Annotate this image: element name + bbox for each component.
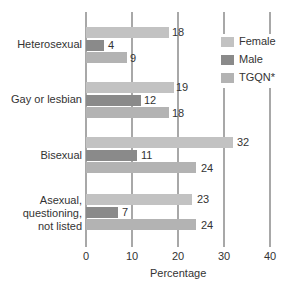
bar-bisexual-female: [86, 137, 233, 148]
bar-chart: 18 4 9 Heterosexual 19 12 18 Gay or lesb…: [0, 0, 284, 283]
category-line-2: questioning,: [23, 207, 82, 220]
legend-swatch-female: [221, 37, 234, 47]
bar-bisexual-tgqn: [86, 162, 196, 173]
category-heterosexual: Heterosexual: [17, 38, 82, 51]
legend: Female Male TGQN*: [219, 34, 284, 88]
legend-item-female: Female: [219, 34, 284, 52]
bar-gay-female: [86, 82, 174, 93]
legend-label-male: Male: [239, 53, 263, 65]
x-tick-10: 10: [117, 250, 147, 262]
category-line-3: not listed: [23, 220, 82, 233]
legend-swatch-male: [221, 55, 234, 65]
value-heterosexual-female: 18: [172, 27, 184, 38]
category-asexual-questioning-not-listed: Asexual, questioning, not listed: [23, 194, 82, 233]
legend-item-tgqn: TGQN*: [219, 70, 284, 88]
bar-gay-tgqn: [86, 107, 169, 118]
value-asexual-male: 7: [119, 207, 131, 218]
category-bisexual: Bisexual: [40, 149, 82, 162]
x-tick-0: 0: [71, 250, 101, 262]
legend-label-tgqn: TGQN*: [239, 71, 275, 83]
x-tick-20: 20: [163, 250, 193, 262]
x-tick-40: 40: [255, 250, 284, 262]
value-bisexual-female: 32: [237, 137, 249, 148]
value-heterosexual-tgqn: 9: [130, 53, 136, 64]
bar-asexual-tgqn: [86, 219, 196, 230]
bar-asexual-female: [86, 194, 192, 205]
category-gay-or-lesbian: Gay or lesbian: [11, 93, 82, 106]
value-asexual-tgqn: 24: [201, 220, 213, 231]
bar-heterosexual-male: [86, 40, 104, 51]
legend-label-female: Female: [239, 35, 276, 47]
bar-heterosexual-female: [86, 27, 169, 38]
value-gay-tgqn: 18: [172, 108, 184, 119]
bar-gay-male: [86, 95, 141, 106]
x-axis-label: Percentage: [150, 267, 206, 279]
x-tick-30: 30: [209, 250, 239, 262]
gridline-20: [177, 12, 179, 247]
value-bisexual-tgqn: 24: [201, 163, 213, 174]
gridline-10: [131, 12, 133, 247]
value-bisexual-male: 11: [138, 150, 155, 161]
value-heterosexual-male: 4: [105, 40, 117, 51]
value-gay-male: 12: [141, 95, 159, 106]
bar-bisexual-male: [86, 150, 137, 161]
value-gay-female: 19: [176, 82, 188, 93]
bar-heterosexual-tgqn: [86, 52, 127, 63]
legend-item-male: Male: [219, 52, 284, 70]
bar-asexual-male: [86, 207, 118, 218]
value-asexual-female: 23: [197, 194, 209, 205]
category-line-1: Asexual,: [23, 194, 82, 207]
legend-swatch-tgqn: [221, 73, 234, 83]
